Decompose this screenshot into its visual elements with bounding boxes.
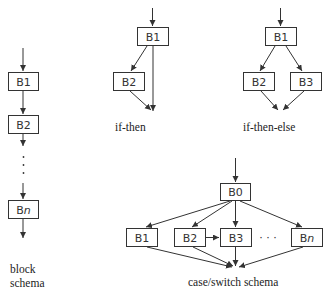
- ifelse-b1-node: B1: [266, 28, 297, 46]
- ifelse-b2-label: B2: [252, 76, 267, 89]
- case-b1-node: B1: [127, 229, 158, 247]
- control-flow-schemas: B1 B2 Bn block schema B1 B2: [0, 0, 331, 299]
- case-b3-label: B3: [229, 232, 244, 245]
- arrow-b2-merge: [193, 247, 233, 266]
- if-then-else-schema: B1 B2 B3 if-then-else: [243, 8, 322, 133]
- ifthen-b1-label: B1: [146, 31, 161, 44]
- block-caption-line1: block: [10, 263, 36, 275]
- ifelse-b3-node: B3: [291, 73, 322, 91]
- arrow-b2-merge: [261, 91, 278, 110]
- arrow-b1-b2: [260, 46, 275, 71]
- arrow-b0-b1: [146, 201, 230, 227]
- arrow-b1-b2: [131, 46, 147, 71]
- case-b0-node: B0: [221, 184, 251, 201]
- case-bn-label: Bn: [300, 232, 315, 245]
- ifthen-b2-node: B2: [114, 73, 145, 91]
- arrow-b0-bn: [240, 201, 302, 227]
- vertical-ellipsis: [23, 156, 25, 174]
- block-bn-label: Bn: [16, 204, 31, 217]
- block-schema: B1 B2 Bn block schema: [9, 48, 45, 289]
- case-b2-label: B2: [183, 232, 198, 245]
- case-caption: case/switch schema: [188, 276, 278, 288]
- ifelse-caption: if-then-else: [243, 121, 295, 133]
- case-bn-node: Bn: [292, 229, 323, 247]
- arrow-b2-merge: [130, 91, 151, 110]
- arrow-b1-merge: [147, 247, 232, 267]
- block-caption-line2: schema: [10, 277, 44, 289]
- case-b1-label: B1: [135, 232, 150, 245]
- ifelse-b2-node: B2: [244, 73, 275, 91]
- block-b1-node: B1: [9, 73, 39, 91]
- block-b2-node: B2: [9, 116, 39, 134]
- case-b2-node: B2: [175, 229, 206, 247]
- arrow-b3-merge: [283, 91, 304, 110]
- block-b2-label: B2: [16, 119, 31, 132]
- block-bn-node: Bn: [9, 201, 39, 219]
- ifthen-b2-label: B2: [122, 76, 137, 89]
- ifelse-b1-label: B1: [274, 31, 289, 44]
- horizontal-ellipsis: · · ·: [259, 231, 276, 244]
- ifthen-b1-node: B1: [138, 28, 169, 46]
- ifthen-caption: if-then: [115, 121, 146, 133]
- block-b1-label: B1: [16, 76, 31, 89]
- arrow-b0-b2: [192, 201, 232, 227]
- case-switch-schema: B0 B1 B2 B3 · · · Bn case/switch sche: [127, 158, 323, 288]
- ifelse-b3-label: B3: [299, 76, 314, 89]
- case-b0-label: B0: [228, 186, 243, 199]
- if-then-schema: B1 B2 if-then: [114, 8, 169, 133]
- arrow-b1-b3: [286, 46, 302, 71]
- arrow-bn-merge: [239, 247, 303, 267]
- case-b3-node: B3: [221, 229, 252, 247]
